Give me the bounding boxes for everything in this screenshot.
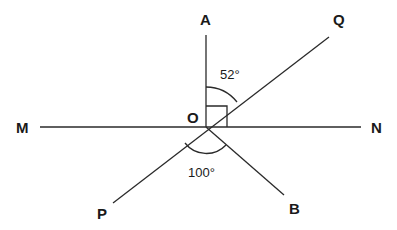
label-b: B (289, 200, 300, 217)
label-n: N (371, 119, 382, 136)
line-pq (113, 37, 329, 203)
angle-label-pob: 100° (188, 165, 215, 180)
arc-pob (185, 143, 226, 153)
label-p: P (97, 205, 107, 222)
arc-aoq (206, 87, 237, 102)
angle-diagram: A Q M N P B O 52° 100° (0, 0, 397, 230)
label-a: A (200, 11, 211, 28)
angle-label-aoq: 52° (220, 67, 240, 82)
ray-ob (206, 127, 284, 195)
label-q: Q (333, 11, 345, 28)
label-o: O (187, 109, 199, 126)
label-m: M (16, 119, 29, 136)
